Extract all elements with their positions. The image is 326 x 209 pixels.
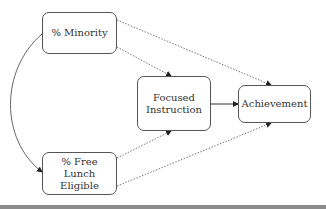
node-achievement: Achievement xyxy=(238,85,311,123)
path-diagram: % Minority Focused Instruction Achieveme… xyxy=(0,0,326,209)
node-freelunch-label-line2: Eligible xyxy=(45,180,114,192)
node-minority: % Minority xyxy=(42,12,117,54)
node-focused-instruction: Focused Instruction xyxy=(137,76,211,131)
correlation-arrow-minority-freelunch xyxy=(11,34,43,172)
edge-freelunch-to-focused xyxy=(117,131,171,158)
node-focused-label-line2: Instruction xyxy=(146,104,202,116)
node-achievement-label: Achievement xyxy=(242,98,308,110)
node-focused-label-line1: Focused xyxy=(146,92,202,104)
node-minority-label: % Minority xyxy=(51,27,107,39)
edge-minority-to-focused xyxy=(117,47,171,76)
node-free-lunch-eligible: % Free Lunch Eligible xyxy=(42,152,117,195)
bottom-divider xyxy=(0,205,326,209)
edge-freelunch-to-achievement xyxy=(117,123,271,186)
node-freelunch-label-line1: % Free Lunch xyxy=(45,156,114,180)
